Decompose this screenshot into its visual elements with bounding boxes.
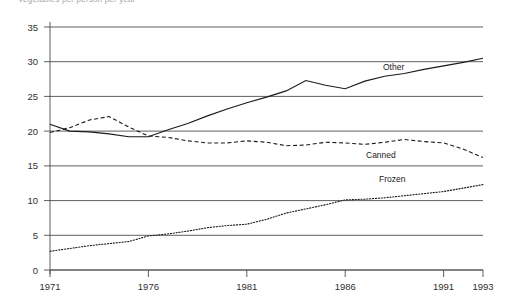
y-tick-label-15: 15 [27,160,38,171]
chart-plot-area: 35 30 25 20 15 10 5 0 1971 1976 1981 198… [0,0,508,298]
series-line-canned [50,117,483,158]
gridlines-group [50,27,483,270]
y-tick-label-35: 35 [27,22,38,33]
x-tick-label-1976: 1976 [138,281,159,292]
x-axis-tick-labels: 1971 1976 1981 1986 1991 1993 [39,281,493,292]
chart-container: Vegetables per person per year 35 30 [0,0,508,298]
y-tick-label-0: 0 [33,265,38,276]
y-tick-label-5: 5 [33,230,38,241]
y-tick-label-20: 20 [27,126,38,137]
y-axis-tick-labels: 35 30 25 20 15 10 5 0 [27,22,38,276]
series-label-other: Other [383,62,404,72]
x-tick-label-1986: 1986 [335,281,356,292]
series-line-other [50,58,483,136]
x-tick-label-1971: 1971 [39,281,60,292]
series-label-frozen: Frozen [379,174,406,184]
series-label-canned: Canned [366,150,396,160]
x-axis-group [50,270,483,277]
y-tick-label-25: 25 [27,91,38,102]
y-tick-label-10: 10 [27,195,38,206]
x-tick-label-1993: 1993 [472,281,493,292]
y-tick-label-30: 30 [27,56,38,67]
x-tick-label-1991: 1991 [433,281,454,292]
series-line-frozen [50,185,483,252]
series-group [50,58,483,251]
x-tick-label-1981: 1981 [236,281,257,292]
y-axis-group [44,22,50,274]
